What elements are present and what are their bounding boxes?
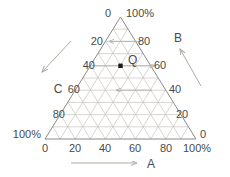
axis-arrow-c <box>42 41 71 72</box>
point-label-q: Q <box>128 53 137 67</box>
right-tick-80: 80 <box>138 35 150 47</box>
apex-left-label: 0 <box>105 7 111 19</box>
bottom-tick-100: 100% <box>183 142 211 154</box>
left-tick-60: 60 <box>68 83 80 95</box>
axis-label-b: B <box>174 31 182 45</box>
axis-arrow-b <box>180 49 201 86</box>
apex-right-label: 100% <box>126 7 154 19</box>
axis-label-c: C <box>54 82 63 96</box>
left-corner-outer-label: 100% <box>13 128 41 140</box>
right-tick-60: 60 <box>154 59 166 71</box>
left-tick-20: 20 <box>91 35 103 47</box>
right-tick-40: 40 <box>169 83 181 95</box>
bottom-tick-60: 60 <box>129 142 141 154</box>
bottom-tick-80: 80 <box>160 142 172 154</box>
bottom-tick-20: 20 <box>69 142 81 154</box>
right-corner-outer-label: 0 <box>200 128 206 140</box>
ternary-diagram-canvas: 0 100% 20 40 60 80 80 60 40 20 100% 0 0 … <box>0 0 230 177</box>
ternary-diagram: 0 100% 20 40 60 80 80 60 40 20 100% 0 0 … <box>0 0 230 177</box>
axis-label-a: A <box>147 157 155 171</box>
right-tick-20: 20 <box>176 108 188 120</box>
left-tick-40: 40 <box>83 59 95 71</box>
axis-direction-arrows <box>42 41 201 163</box>
data-point-q <box>118 64 122 68</box>
bottom-tick-40: 40 <box>99 142 111 154</box>
left-tick-80: 80 <box>53 108 65 120</box>
bottom-tick-0: 0 <box>42 142 48 154</box>
